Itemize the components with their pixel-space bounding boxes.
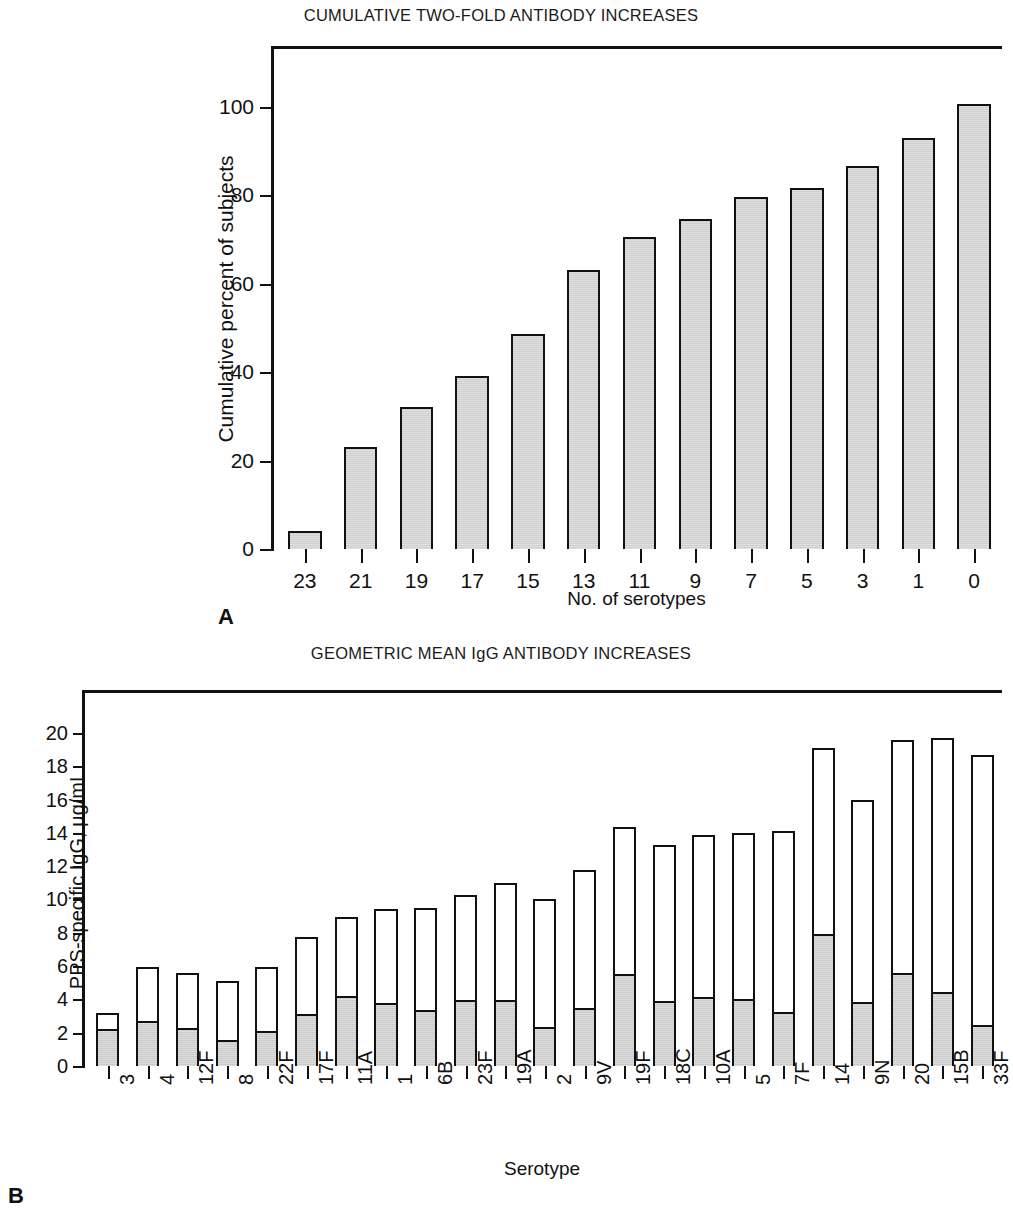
panel-a-y-tick-label: 20 <box>231 449 254 473</box>
panel-b-title: GEOMETRIC MEAN IgG ANTIBODY INCREASES <box>0 644 1002 663</box>
panel-b-x-tick <box>108 1066 110 1079</box>
panel-b-x-tick <box>426 1066 428 1079</box>
panel-b-bar-prevaccination-segment <box>456 1000 475 1066</box>
panel-b-bar <box>136 967 159 1066</box>
panel-b-bar-prevaccination-segment <box>694 997 713 1066</box>
panel-b-bar-slot <box>565 693 605 1066</box>
panel-b-x-tick-label: 10A <box>712 1049 735 1085</box>
panel-b-bar-prevaccination-segment <box>376 1003 395 1066</box>
panel-a-bar <box>288 531 321 549</box>
panel-b-y-tick-label: 18 <box>46 755 68 778</box>
panel-a-y-tick <box>260 107 274 109</box>
panel-b-x-tick <box>187 1066 189 1079</box>
panel-b-y-tick <box>73 966 85 968</box>
panel-b-x-tick-label: 19F <box>632 1051 655 1085</box>
panel-b-x-tick <box>267 1066 269 1079</box>
panel-b-bar-prevaccination-segment <box>535 1027 554 1066</box>
panel-b-bar <box>573 870 596 1066</box>
panel-b-bar-prevaccination-segment <box>138 1021 157 1066</box>
panel-b-x-tick <box>307 1066 309 1079</box>
panel-b-y-tick <box>73 866 85 868</box>
panel-a-x-axis-title: No. of serotypes <box>271 588 1002 610</box>
panel-b-x-tick-label: 5 <box>752 1074 775 1085</box>
panel-b-x-tick <box>704 1066 706 1079</box>
panel-a-x-tick <box>305 549 307 563</box>
panel-b-x-tick-label: 17F <box>315 1051 338 1085</box>
panel-a-x-tick <box>640 549 642 563</box>
panel-b-bar-prevaccination-segment <box>337 996 356 1066</box>
panel-b-plot-area: PPS-specific IgG, µg/mL02468101214161820… <box>82 690 1002 1066</box>
panel-b-x-tick-label: 33F <box>990 1051 1013 1085</box>
panel-a-x-tick <box>863 549 865 563</box>
panel-a-bar-slot <box>612 49 668 549</box>
panel-a-bar-slot <box>779 49 835 549</box>
panel-b-y-tick-label: 2 <box>57 1021 68 1044</box>
panel-a-y-tick <box>260 372 274 374</box>
panel-a-x-tick <box>361 549 363 563</box>
panel-b-x-tick-label: 6B <box>434 1061 457 1085</box>
panel-b-x-tick <box>585 1066 587 1079</box>
panel-b-x-tick <box>903 1066 905 1079</box>
panel-b-bar-prevaccination-segment <box>734 999 753 1066</box>
panel-b-x-tick-label: 20 <box>911 1063 934 1085</box>
panel-b-y-tick-label: 14 <box>46 821 68 844</box>
panel-a-bar <box>790 188 823 549</box>
panel-b-bar-slot <box>446 693 486 1066</box>
panel-a-bar-slot <box>556 49 612 549</box>
panel-b-bar-slot <box>207 693 247 1066</box>
panel-b-bar-prevaccination-segment <box>218 1040 237 1066</box>
panel-a-bar-slot <box>389 49 445 549</box>
panel-b-y-tick <box>73 733 85 735</box>
panel-b-bar <box>971 755 994 1066</box>
panel-a-x-tick <box>751 549 753 563</box>
panel-b-x-tick <box>942 1066 944 1079</box>
panel-b-bar <box>931 738 954 1066</box>
panel-a-bar-slot <box>277 49 333 549</box>
panel-b-x-tick <box>982 1066 984 1079</box>
panel-b-bar <box>533 899 556 1066</box>
panel-b-x-tick-label: 19A <box>513 1049 536 1085</box>
panel-a-x-tick <box>584 549 586 563</box>
panel-a-bar-slot <box>890 49 946 549</box>
panel-b-x-tick <box>466 1066 468 1079</box>
panel-b-bar-slot <box>922 693 962 1066</box>
panel-a-bar <box>400 407 433 549</box>
panel-b-bar-slot <box>962 693 1002 1066</box>
panel-a-y-tick-label: 80 <box>231 183 254 207</box>
panel-b-bar <box>454 895 477 1067</box>
panel-a-y-tick-label: 40 <box>231 360 254 384</box>
panel-b-x-tick-label: 9N <box>871 1059 894 1085</box>
panel-a-bar-slot <box>835 49 891 549</box>
panel-b-bar-prevaccination-segment <box>496 1000 515 1066</box>
panel-b-y-tick <box>73 933 85 935</box>
panel-b-bar-slot <box>803 693 843 1066</box>
panel-b-y-tick <box>73 1033 85 1035</box>
panel-b-x-tick <box>346 1066 348 1079</box>
panel-a-bar-slot <box>444 49 500 549</box>
panel-b-x-tick-label: 4 <box>156 1074 179 1085</box>
panel-b-bar <box>812 748 835 1066</box>
panel-b: GEOMETRIC MEAN IgG ANTIBODY INCREASES PP… <box>0 640 1002 1210</box>
panel-b-x-tick <box>227 1066 229 1079</box>
panel-b-y-tick <box>73 999 85 1001</box>
panel-b-bar <box>414 908 437 1066</box>
panel-b-y-tick <box>73 800 85 802</box>
panel-b-bar-slot <box>167 693 207 1066</box>
panel-b-x-tick <box>664 1066 666 1079</box>
panel-b-x-tick-label: 2 <box>553 1074 576 1085</box>
panel-b-bar <box>772 831 795 1066</box>
panel-b-x-tick-label: 12F <box>195 1051 218 1085</box>
panel-b-bar <box>891 740 914 1066</box>
panel-b-bar-prevaccination-segment <box>774 1012 793 1066</box>
panel-b-x-tick <box>148 1066 150 1079</box>
panel-b-bars <box>88 693 1002 1066</box>
panel-b-y-tick-label: 12 <box>46 855 68 878</box>
panel-b-y-tick <box>73 1066 85 1068</box>
panel-a-x-tick <box>974 549 976 563</box>
panel-b-x-tick-label: 14 <box>831 1063 854 1085</box>
panel-b-bar <box>732 833 755 1066</box>
panel-b-bar <box>692 835 715 1066</box>
panel-a-x-tick <box>918 549 920 563</box>
panel-b-bar-prevaccination-segment <box>178 1028 197 1066</box>
